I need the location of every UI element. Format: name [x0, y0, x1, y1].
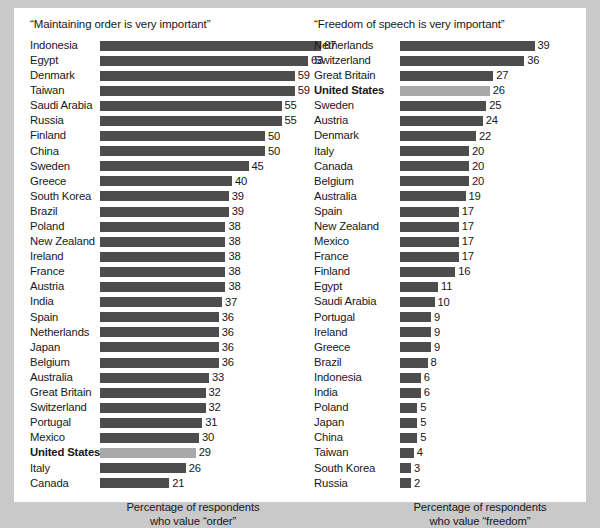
bar-row-track: 9	[400, 310, 580, 325]
bar-value-label: 55	[285, 100, 297, 111]
bar-value-label: 29	[199, 447, 211, 458]
bar-row: Egypt11	[314, 280, 580, 295]
bar-row-track: 36	[100, 355, 296, 370]
bar-row-label: Indonesia	[30, 40, 100, 51]
bar-row-track: 32	[100, 385, 296, 400]
bar	[400, 418, 417, 428]
bar	[100, 86, 295, 96]
bar	[100, 41, 321, 51]
bar-value-label: 20	[472, 146, 484, 157]
bar-value-label: 32	[209, 402, 221, 413]
bar-row-track: 24	[400, 113, 580, 128]
bar	[400, 191, 466, 201]
bar	[100, 312, 219, 322]
bar	[400, 448, 414, 458]
bar-row-label: Egypt	[314, 281, 400, 292]
bar-row-label: Austria	[30, 281, 100, 292]
bar-row-label: Poland	[314, 402, 400, 413]
bar-value-label: 39	[538, 40, 550, 51]
bar-row-track: 20	[400, 144, 580, 159]
bar-row-track: 6	[400, 385, 580, 400]
bar-row: South Korea3	[314, 461, 580, 476]
bar-row-label: Greece	[314, 342, 400, 353]
bar-value-label: 8	[431, 357, 437, 368]
bar-row-track: 17	[400, 219, 580, 234]
bar-row-track: 36	[100, 325, 296, 340]
bar-row-label: Switzerland	[30, 402, 100, 413]
bar-row: Netherlands36	[30, 325, 296, 340]
panel-order-caption-line1: Percentage of respondents	[90, 500, 296, 514]
bar	[400, 116, 483, 126]
bar-row-label: India	[30, 296, 100, 307]
bar-value-label: 11	[441, 281, 452, 292]
panel-order-bar-rows: Indonesia67Egypt63Denmark59Taiwan59Saudi…	[30, 38, 296, 491]
bar-value-label: 50	[268, 131, 280, 142]
bar	[400, 358, 428, 368]
bar	[100, 388, 206, 398]
bar-value-label: 39	[232, 206, 244, 217]
bar-row-track: 39	[100, 189, 296, 204]
bar-row-label: Great Britain	[314, 70, 400, 81]
bar	[100, 146, 265, 156]
bar-row-label: Netherlands	[30, 327, 100, 338]
bar-row-track: 17	[400, 234, 580, 249]
bar-row-track: 59	[100, 68, 310, 83]
bar-value-label: 20	[472, 161, 484, 172]
bar-row: Egypt63	[30, 53, 296, 68]
bar-row-track: 55	[100, 113, 297, 128]
bar-value-label: 17	[462, 221, 474, 232]
bar-row: Taiwan4	[314, 446, 580, 461]
bar-row: Australia33	[30, 370, 296, 385]
bar	[400, 71, 493, 81]
bar-row-label: Russia	[30, 115, 100, 126]
bar-row-label: Ireland	[30, 251, 100, 262]
bar-value-label: 20	[472, 176, 484, 187]
bar-row-label: Belgium	[30, 357, 100, 368]
bar	[400, 373, 421, 383]
bar-row: Spain17	[314, 204, 580, 219]
bar	[100, 418, 202, 428]
bar-row: Finland16	[314, 264, 580, 279]
bar-row-label: Brazil	[314, 357, 400, 368]
bar-row: United States29	[30, 446, 296, 461]
bar-row-track: 31	[100, 415, 296, 430]
bar-value-label: 9	[434, 327, 440, 338]
bar-row: Portugal9	[314, 310, 580, 325]
bar	[400, 297, 435, 307]
bar-row-track: 20	[400, 159, 580, 174]
bar-value-label: 9	[434, 312, 440, 323]
bar-row-track: 9	[400, 325, 580, 340]
bar-row-track: 50	[100, 144, 296, 159]
bar-row-label: Indonesia	[314, 372, 400, 383]
bar-row-label: Finland	[30, 130, 100, 141]
bar-row-track: 26	[400, 83, 580, 98]
bar-value-label: 19	[469, 191, 481, 202]
bar	[100, 358, 219, 368]
bar-row: Italy26	[30, 461, 296, 476]
panel-freedom-caption-line1: Percentage of respondents	[380, 500, 580, 514]
bar	[100, 191, 229, 201]
bar-row-label: Brazil	[30, 206, 100, 217]
panel-order-title: “Maintaining order is very important”	[30, 18, 296, 30]
bar	[400, 433, 417, 443]
bar-row-label: Australia	[314, 191, 400, 202]
bar-row: Netherlands39	[314, 38, 580, 53]
bar	[400, 463, 411, 473]
bar-row-track: 59	[100, 83, 310, 98]
bar-row-label: Mexico	[314, 236, 400, 247]
bar-row-label: Netherlands	[314, 40, 400, 51]
bar-row-label: South Korea	[314, 463, 400, 474]
bar-row: Indonesia67	[30, 38, 296, 53]
bar	[100, 267, 225, 277]
panel-order-caption-line2: who value “order”	[90, 514, 296, 528]
bar-value-label: 36	[222, 342, 234, 353]
bar	[100, 282, 225, 292]
bar-row-track: 19	[400, 189, 580, 204]
bar-value-label: 26	[493, 85, 505, 96]
bar	[400, 176, 469, 186]
bar	[400, 342, 431, 352]
bar-row: Denmark22	[314, 129, 580, 144]
bar-row-label: Australia	[30, 372, 100, 383]
bar	[400, 252, 459, 262]
bar-row-track: 20	[400, 174, 580, 189]
